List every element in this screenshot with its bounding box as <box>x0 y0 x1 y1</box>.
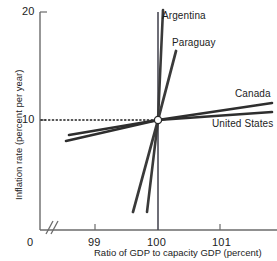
series-label-canada: Canada <box>235 88 271 99</box>
x-tick-label-0: 0 <box>27 236 33 248</box>
y-tick-label-20: 20 <box>22 5 35 17</box>
chart-plot-area <box>0 0 277 261</box>
x-axis-title: Ratio of GDP to capacity GDP (percent) <box>94 247 262 258</box>
series-label-paraguay: Paraguay <box>172 37 216 48</box>
chart-figure: 20 10 0 99 100 101 Inflation rate (perce… <box>0 0 277 261</box>
series-label-argentina: Argentina <box>162 10 206 21</box>
axis-break-icon <box>46 221 58 234</box>
intersection-point-marker <box>154 116 161 123</box>
series-line-paraguay <box>133 51 176 212</box>
y-axis-title: Inflation rate (percent per year) <box>13 70 24 200</box>
series-label-united-states: United States <box>212 118 273 129</box>
